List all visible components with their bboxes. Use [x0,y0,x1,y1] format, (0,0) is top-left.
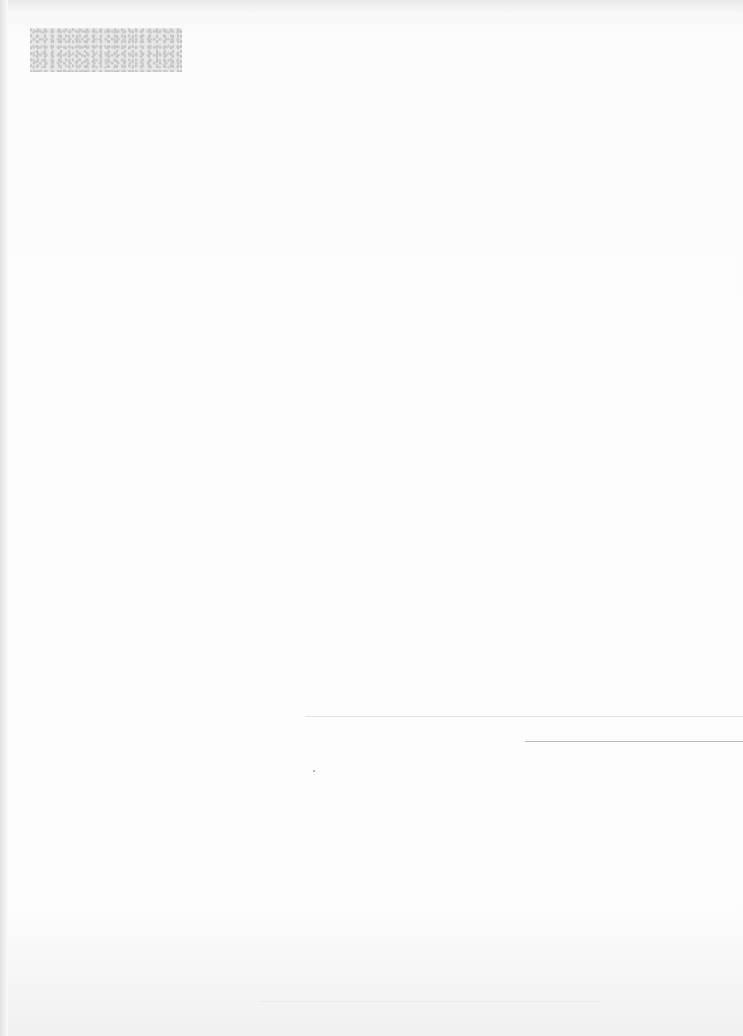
header-stamp [30,28,182,72]
page-edge-shadow [0,0,8,1036]
horizontal-rule [305,716,743,717]
ink-speck [313,770,315,772]
signature-line [525,741,743,742]
bottom-rule [260,1001,600,1002]
scanned-page [0,0,743,1036]
